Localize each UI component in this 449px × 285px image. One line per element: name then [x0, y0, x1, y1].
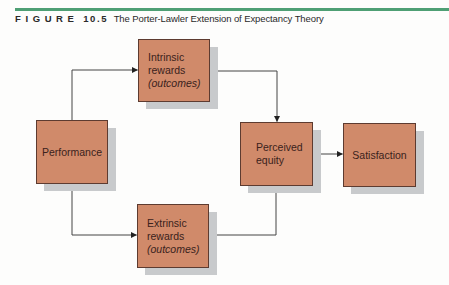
edge-intrinsic-to-equity — [210, 71, 277, 122]
node-label: Perceived — [256, 141, 312, 154]
node-label: Intrinsic — [148, 51, 209, 64]
node-performance: Performance — [36, 120, 108, 184]
edge-performance-to-extrinsic — [72, 184, 137, 235]
node-label: rewards — [148, 64, 209, 77]
node-label: Performance — [42, 146, 102, 159]
edge-performance-to-intrinsic — [72, 70, 138, 120]
node-intrinsic-rewards: Intrinsic rewards (outcomes) — [138, 39, 210, 102]
node-label-qualifier: (outcomes) — [148, 77, 209, 90]
node-label: Satisfaction — [352, 149, 406, 162]
node-satisfaction: Satisfaction — [343, 123, 416, 187]
node-perceived-equity: Perceived equity — [240, 122, 313, 186]
node-extrinsic-rewards: Extrinsic rewards (outcomes) — [137, 204, 209, 268]
node-label: rewards — [147, 230, 208, 243]
node-label: Extrinsic — [147, 217, 208, 230]
node-label-qualifier: (outcomes) — [147, 243, 208, 256]
node-label: equity — [256, 154, 312, 167]
